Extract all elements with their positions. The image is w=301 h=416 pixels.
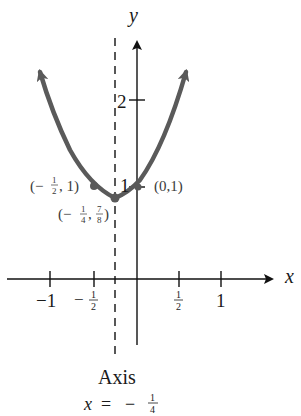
- svg-text:x: x: [83, 394, 92, 414]
- svg-text:1: 1: [52, 175, 57, 185]
- label-left-point: (− 1 2 , 1): [30, 175, 79, 196]
- y-axis-label: y: [127, 4, 138, 27]
- x-tick-label-neg1: −1: [36, 290, 56, 311]
- svg-text:2: 2: [176, 301, 181, 312]
- x-tick-label-half: 1 2: [174, 289, 183, 312]
- axis-caption-title: Axis: [98, 366, 136, 388]
- svg-text:,: ,: [88, 206, 92, 222]
- svg-text:1: 1: [81, 204, 86, 214]
- svg-text:2: 2: [91, 301, 96, 312]
- svg-text:7: 7: [97, 204, 102, 214]
- svg-text:1: 1: [176, 289, 181, 300]
- svg-text:(−: (−: [30, 178, 43, 195]
- x-tick-label-1: 1: [216, 290, 226, 311]
- y-tick-label-2: 2: [117, 91, 127, 112]
- point-vertex: [111, 194, 120, 203]
- x-tick-label-neg-half: − 1 2: [74, 289, 98, 312]
- svg-text:−: −: [125, 394, 135, 414]
- svg-text:−: −: [74, 290, 84, 309]
- svg-text:4: 4: [150, 404, 155, 415]
- svg-text:1: 1: [150, 392, 155, 403]
- svg-text:1: 1: [91, 289, 96, 300]
- axis-caption-equation: x = − 1 4: [83, 392, 158, 415]
- svg-text:): ): [104, 206, 109, 223]
- svg-text:4: 4: [81, 215, 86, 225]
- parabola-graph: y x 2 1 −1 − 1 2 1 2 1 (− 1 2 , 1) (− 1 …: [0, 0, 301, 416]
- svg-text:2: 2: [52, 186, 57, 196]
- svg-text:(−: (−: [58, 206, 71, 223]
- svg-text:=: =: [101, 394, 111, 414]
- label-y-intercept: (0,1): [154, 178, 183, 195]
- svg-text:8: 8: [97, 215, 102, 225]
- point-left: [90, 182, 98, 190]
- y-tick-label-1: 1: [120, 175, 130, 196]
- point-y-intercept: [135, 184, 142, 191]
- svg-text:, 1): , 1): [59, 178, 79, 195]
- x-axis-label: x: [284, 265, 294, 287]
- label-vertex: (− 1 4 , 7 8 ): [58, 204, 109, 225]
